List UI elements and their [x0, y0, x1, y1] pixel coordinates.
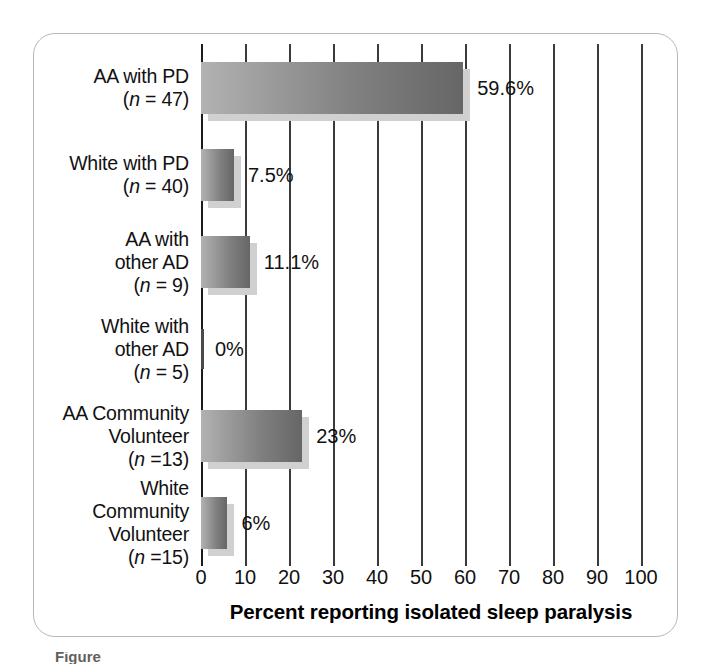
x-tick-label: 90	[586, 566, 608, 589]
bar-fill	[201, 62, 463, 114]
bar-fill	[201, 410, 302, 462]
category-label: WhiteCommunityVolunteer(n =15)	[34, 477, 189, 569]
bar-row: AA CommunityVolunteer(n =13)23%	[34, 392, 679, 479]
bar-fill	[201, 329, 204, 369]
bar	[201, 497, 227, 549]
x-tick-label: 0	[195, 566, 206, 589]
x-tick-label: 100	[624, 566, 657, 589]
bar	[201, 62, 463, 114]
x-tick-label: 80	[542, 566, 564, 589]
x-axis-title: Percent reporting isolated sleep paralys…	[201, 600, 661, 624]
x-tick-label: 40	[366, 566, 388, 589]
category-label: AA CommunityVolunteer(n =13)	[34, 401, 189, 470]
bar-fill	[201, 236, 250, 288]
x-axis-tick-labels: 0102030405060708090100	[201, 566, 641, 600]
bar-value-label: 0%	[215, 337, 244, 360]
bar-row: AA with PD(n = 47)59.6%	[34, 44, 679, 131]
figure-frame: AA with PD(n = 47)59.6%White with PD(n =…	[33, 33, 678, 637]
bar-value-label: 59.6%	[477, 76, 534, 99]
bar-row: White with PD(n = 40)7.5%	[34, 131, 679, 218]
category-label: AA with PD(n = 47)	[34, 65, 189, 111]
bar-fill	[201, 149, 234, 201]
x-tick-label: 30	[322, 566, 344, 589]
x-tick-label: 10	[234, 566, 256, 589]
bar	[201, 149, 234, 201]
bar-value-label: 7.5%	[248, 163, 294, 186]
bar	[201, 329, 204, 369]
category-label: White withother AD(n = 5)	[34, 314, 189, 383]
caption-text: Figure	[55, 652, 715, 664]
category-label: AA withother AD(n = 9)	[34, 227, 189, 296]
bar-value-label: 23%	[316, 424, 356, 447]
x-tick-label: 50	[410, 566, 432, 589]
bar-row: WhiteCommunityVolunteer(n =15)6%	[34, 479, 679, 566]
bar-value-label: 6%	[241, 511, 270, 534]
bar-fill	[201, 497, 227, 549]
bar-row: AA withother AD(n = 9)11.1%	[34, 218, 679, 305]
bar	[201, 410, 302, 462]
x-tick-label: 20	[278, 566, 300, 589]
plot-area: AA with PD(n = 47)59.6%White with PD(n =…	[201, 44, 641, 566]
bar	[201, 236, 250, 288]
x-tick-label: 70	[498, 566, 520, 589]
bar-value-label: 11.1%	[264, 250, 319, 273]
category-label: White with PD(n = 40)	[34, 152, 189, 198]
bar-row: White withother AD(n = 5)0%	[34, 305, 679, 392]
figure-caption-sliver: Figure	[0, 652, 715, 664]
x-tick-label: 60	[454, 566, 476, 589]
